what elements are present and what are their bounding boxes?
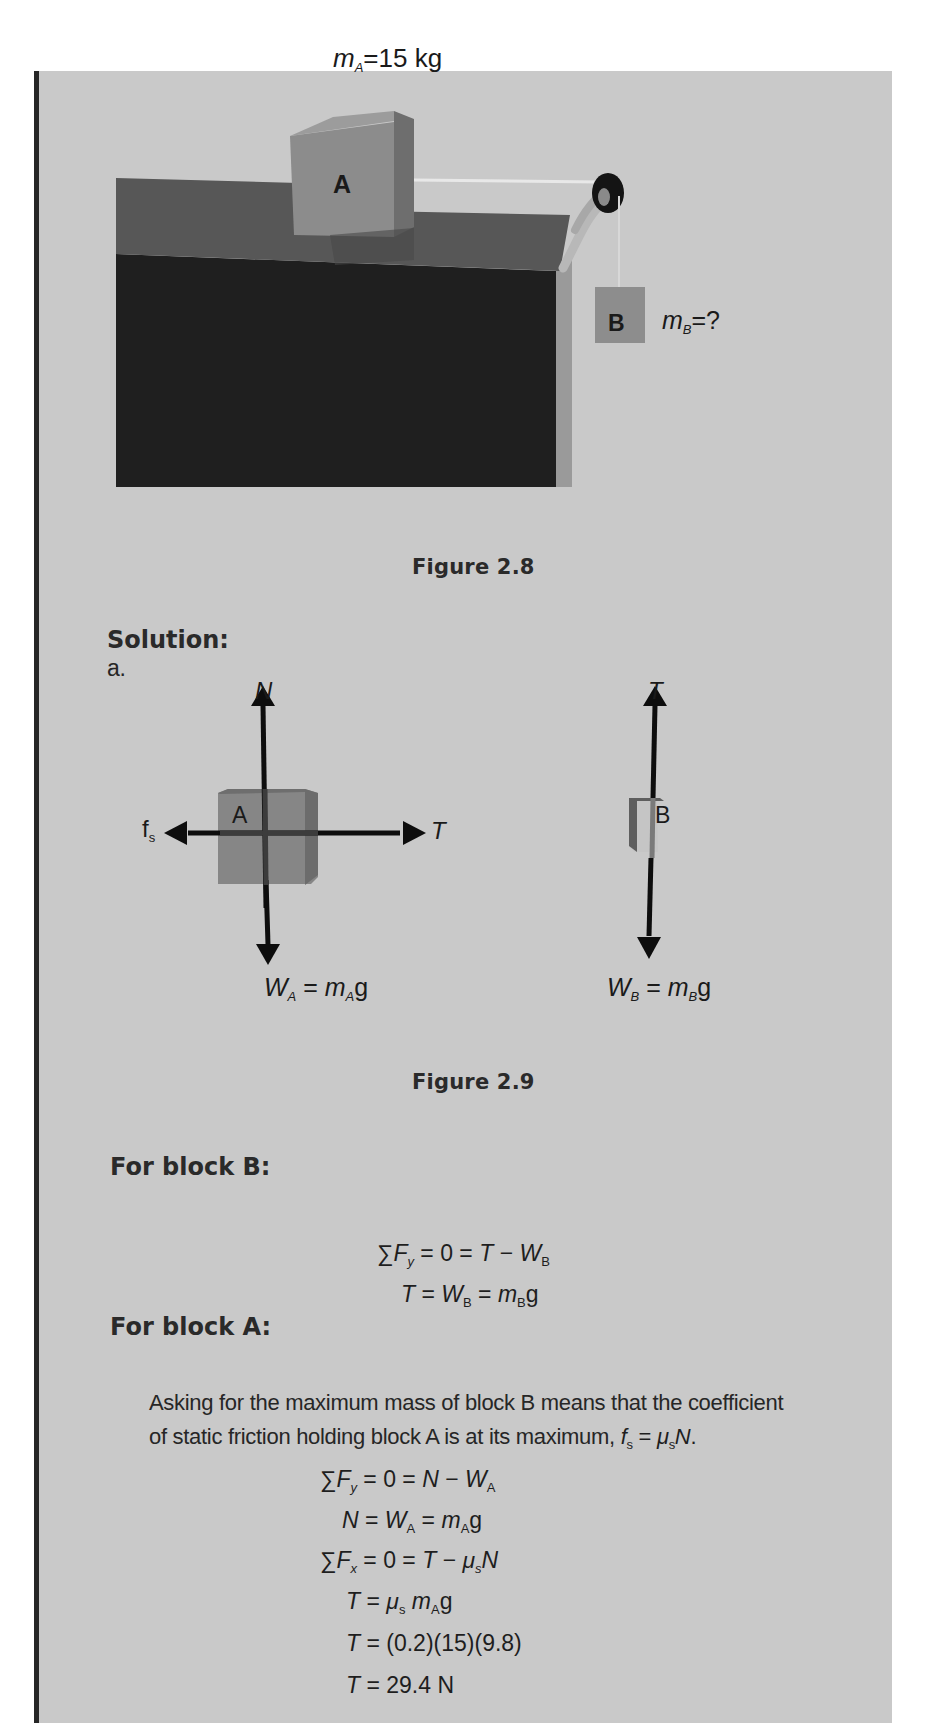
- figure-2-9-caption: Figure 2.9: [412, 1070, 535, 1094]
- figure-2-8: mA=15 kg A B mB=? Figure 2.8: [0, 0, 928, 580]
- weight-b-symbol: W: [607, 973, 631, 1001]
- weight-a-symbol: W: [264, 973, 288, 1001]
- free-body-diagram-block-b: [560, 680, 760, 1100]
- force-fs-label: fs: [142, 815, 155, 843]
- equation-b-1: ∑Fy = 0 = T − WB: [377, 1240, 550, 1267]
- force-n-label: N: [255, 677, 272, 705]
- equation-a-3: ∑Fx = 0 = T − μsN: [320, 1547, 498, 1574]
- free-body-diagram-block-a: [100, 680, 500, 1100]
- mass-b-value: =?: [692, 306, 721, 334]
- block-a-photo-label: A: [333, 170, 351, 199]
- equation-a-2: N = WA = mAg: [342, 1507, 482, 1534]
- mass-b-fbd-symbol: m: [668, 973, 689, 1001]
- mass-a-fbd-symbol: m: [325, 973, 346, 1001]
- mass-b-fbd-subscript: B: [689, 989, 698, 1004]
- equation-a-4: T = μs mAg: [346, 1588, 452, 1615]
- solution-heading: Solution:: [107, 626, 229, 654]
- force-t-label-a: T: [431, 817, 446, 845]
- mass-b-subscript: B: [683, 322, 692, 337]
- mass-a-fbd-subscript: A: [346, 989, 355, 1004]
- weight-a-subscript: A: [288, 989, 297, 1004]
- equation-a-6: T = 29.4 N: [346, 1672, 454, 1699]
- paragraph-line-2: of static friction holding block A is at…: [149, 1420, 869, 1454]
- paragraph-line-2-text: of static friction holding block A is at…: [149, 1424, 621, 1449]
- mass-a-symbol: m: [333, 43, 355, 73]
- force-fs-subscript: s: [149, 830, 156, 845]
- block-b-fbd-label: B: [655, 802, 670, 829]
- mass-a-label: mA=15 kg: [333, 43, 442, 74]
- equation-a-1: ∑Fy = 0 = N − WA: [320, 1466, 495, 1493]
- weight-a-label: WA = mAg: [264, 973, 368, 1002]
- force-t-text-b: T: [648, 677, 663, 704]
- block-a-fbd-label: A: [232, 802, 247, 829]
- friction-formula: fs = μsN.: [621, 1424, 697, 1449]
- weight-b-equals: =: [639, 973, 668, 1001]
- equation-a-5: T = (0.2)(15)(9.8): [346, 1630, 522, 1657]
- block-a-paragraph: Asking for the maximum mass of block B m…: [149, 1386, 869, 1454]
- block-b-photo-label: B: [608, 310, 625, 337]
- force-n-text: N: [255, 677, 272, 704]
- force-t-label-b: T: [648, 677, 663, 705]
- force-fs-symbol: f: [142, 815, 149, 842]
- weight-b-subscript: B: [631, 989, 640, 1004]
- mass-b-symbol: m: [662, 306, 683, 334]
- paragraph-line-1: Asking for the maximum mass of block B m…: [149, 1386, 869, 1420]
- force-t-text-a: T: [431, 817, 446, 844]
- weight-a-equals: =: [296, 973, 325, 1001]
- gravity-b-symbol: g: [697, 973, 711, 1001]
- gravity-a-symbol: g: [354, 973, 368, 1001]
- block-a-heading: For block A:: [110, 1313, 271, 1341]
- figure-2-9: N A fs T WA = mAg T B WB = mBg Figure 2.…: [0, 680, 928, 1140]
- equation-b-2: T = WB = mBg: [401, 1281, 539, 1308]
- pulley-system-illustration: [0, 0, 928, 560]
- mass-a-value: =15 kg: [363, 43, 442, 73]
- weight-b-label: WB = mBg: [607, 973, 711, 1002]
- block-b-heading: For block B:: [110, 1153, 270, 1181]
- figure-2-8-caption: Figure 2.8: [412, 555, 535, 579]
- mass-b-label: mB=?: [662, 306, 720, 335]
